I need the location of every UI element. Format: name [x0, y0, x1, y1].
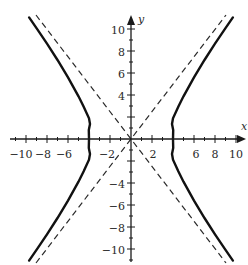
- x-axis-label: x: [241, 120, 248, 133]
- y-tick-label: 6: [118, 68, 125, 81]
- x-tick-label: 6: [193, 148, 200, 161]
- x-tick-label: −8: [35, 148, 51, 161]
- x-axis: [10, 135, 246, 143]
- x-axis-arrow-icon: [237, 135, 246, 143]
- x-tick-label: 10: [229, 148, 243, 161]
- y-tick-labels: 10 8 6 4 −4 −6 −8 −10: [102, 24, 125, 257]
- y-tick-label: −6: [109, 200, 125, 213]
- x-tick-label: −10: [9, 148, 32, 161]
- y-tick-label: −8: [109, 222, 125, 235]
- hyperbola-plot: x y −10 −8 −6 −2 2 6 8 10 10 8 6 4 −4 −6…: [0, 0, 248, 265]
- x-tick-label: −6: [56, 148, 72, 161]
- x-tick-labels: −10 −8 −6 −2 2 6 8 10: [9, 148, 243, 161]
- x-tick-label: 8: [212, 148, 219, 161]
- y-tick-label: 10: [111, 24, 125, 37]
- y-tick-label: 8: [118, 46, 125, 59]
- y-tick-label: −4: [109, 178, 125, 191]
- y-axis-arrow-icon: [127, 15, 135, 25]
- x-tick-label: −2: [99, 148, 115, 161]
- x-tick-label: 2: [150, 148, 157, 161]
- y-tick-label: 4: [118, 90, 125, 103]
- y-tick-label: −10: [102, 244, 125, 257]
- y-axis-label: y: [137, 13, 145, 26]
